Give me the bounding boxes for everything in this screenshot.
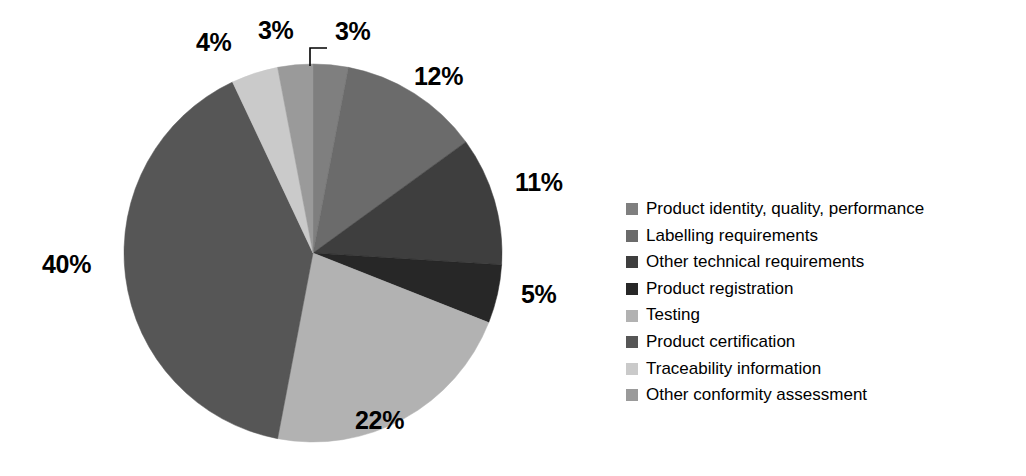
pie-chart-figure: Product identity, quality, performance 3… [0,0,1026,476]
legend-swatch-icon-7 [626,363,638,375]
legend-swatch-icon-8 [626,389,638,401]
slice-label-22pct: 22% [355,408,404,433]
legend-item-5[interactable]: Testing [626,302,1022,329]
legend-item-8[interactable]: Other conformity assessment [626,382,1022,409]
legend-item-label: Product registration [646,280,793,299]
legend-swatch-icon-1 [626,203,638,215]
legend-item-1[interactable]: Product identity, quality, performance [626,196,1022,223]
legend-item-label: Other technical requirements [646,253,864,272]
slice-label-3pct-identity: 3% [335,19,371,44]
pie-plot-area: Product identity, quality, performance 3… [0,0,640,476]
leader-line-3pct [310,48,327,66]
pie-svg: Product identity, quality, performance 3… [0,0,640,476]
legend-swatch-icon-5 [626,310,638,322]
slice-label-12pct: 12% [414,64,463,89]
slice-label-3pct-traceability: 3% [258,18,294,43]
slice-label-5pct: 5% [521,282,557,307]
legend-item-label: Traceability information [646,360,821,379]
slice-label-40pct: 40% [42,252,91,277]
legend-item-2[interactable]: Labelling requirements [626,223,1022,250]
legend-swatch-icon-4 [626,283,638,295]
pie-slice-group: Product identity, quality, performance 3… [124,64,502,442]
legend-item-3[interactable]: Other technical requirements [626,249,1022,276]
legend-item-label: Product identity, quality, performance [646,200,924,219]
legend-item-label: Other conformity assessment [646,386,867,405]
leader-line-group [310,48,327,66]
slice-label-11pct: 11% [515,170,563,195]
slice-label-4pct: 4% [196,30,232,55]
legend-item-label: Labelling requirements [646,227,818,246]
legend-swatch-icon-3 [626,256,638,268]
legend-item-label: Product certification [646,333,795,352]
legend-swatch-icon-6 [626,336,638,348]
legend-swatch-icon-2 [626,230,638,242]
legend-item-7[interactable]: Traceability information [626,356,1022,383]
chart-legend: Product identity, quality, performanceLa… [626,196,1022,409]
legend-item-6[interactable]: Product certification [626,329,1022,356]
legend-item-label: Testing [646,306,700,325]
legend-item-4[interactable]: Product registration [626,276,1022,303]
